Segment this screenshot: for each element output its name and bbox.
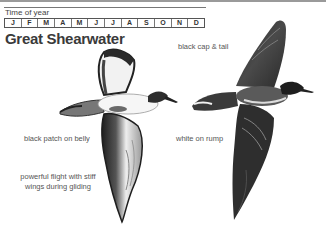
bird-illustrations <box>0 0 326 233</box>
annotation-flight-line1: powerful flight with stiff <box>18 172 98 182</box>
annotation-flight-line2: wings during gliding <box>18 182 98 192</box>
annotation-belly: black patch on belly <box>24 134 90 144</box>
annotation-cap-tail: black cap & tail <box>178 42 228 52</box>
annotation-flight: powerful flight with stiff wings during … <box>18 172 98 192</box>
annotation-rump: white on rump <box>176 134 223 144</box>
